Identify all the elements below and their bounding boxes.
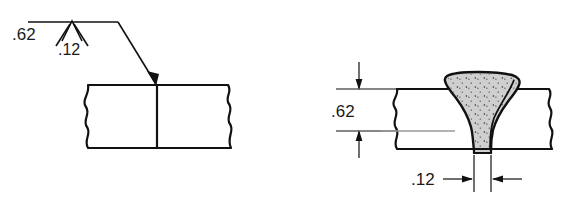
dimension-label-12: .12 bbox=[411, 170, 435, 189]
dimension-arrow-up-62 bbox=[356, 130, 363, 141]
welding-symbol-figure: .62 .12 bbox=[0, 0, 588, 214]
welding-symbol-view: .62 .12 bbox=[12, 21, 232, 148]
symbol-size-label-62: .62 bbox=[12, 25, 36, 44]
dimension-arrow-right-12 bbox=[462, 176, 473, 183]
dimension-arrow-left-12 bbox=[492, 176, 503, 183]
dimension-label-62: .62 bbox=[331, 102, 355, 121]
symbol-depth-label-12: .12 bbox=[58, 41, 80, 58]
dimension-arrow-down-62 bbox=[356, 79, 363, 90]
leader-arrowhead bbox=[147, 71, 159, 86]
weld-root-reinforcement bbox=[474, 149, 491, 153]
weld-cross-section-view: .62 .12 bbox=[331, 62, 553, 192]
technical-drawing-canvas: .62 .12 bbox=[0, 0, 588, 214]
